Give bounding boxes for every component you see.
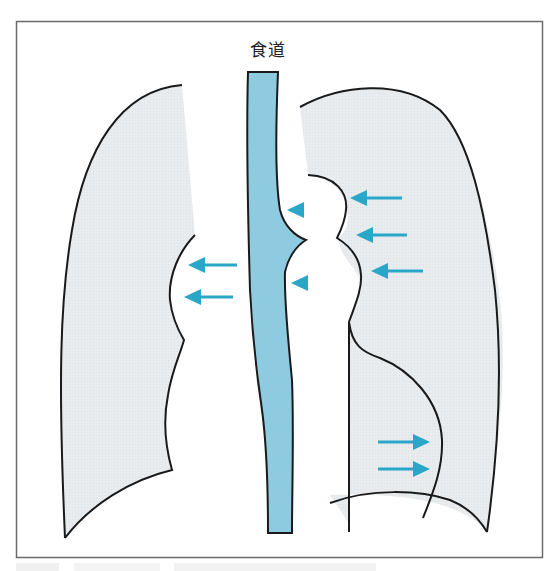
esophagus-shape [247,72,306,533]
left-lung-shape [61,85,195,538]
chest-diagram: 食道 [0,0,557,571]
diagram-canvas [0,0,557,571]
right-lung-shape [300,88,503,530]
figure-caption-truncated [16,563,376,571]
esophagus-label: 食道 [250,36,286,61]
left-arrows [184,257,237,305]
